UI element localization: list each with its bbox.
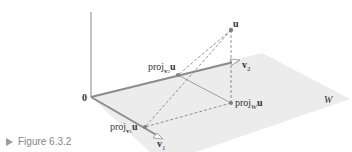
- label-plane-w: W: [324, 95, 332, 105]
- diagram-canvas: [0, 0, 352, 152]
- label-v2: v2: [242, 60, 251, 73]
- caption-text: Figure 6.3.2: [18, 136, 71, 147]
- point-proj-w-u: [229, 101, 233, 105]
- caption-triangle-icon: [6, 138, 13, 146]
- label-proj-v2-u: projv2u: [148, 62, 176, 75]
- label-v1: v1: [157, 139, 166, 152]
- label-proj-w-u: projWu: [235, 98, 263, 111]
- plane-w: [91, 53, 350, 152]
- projection-figure: 0 u v2 v1 projv2u projv1u projWu W Figur…: [0, 0, 352, 152]
- point-proj-v1-u: [143, 125, 147, 129]
- point-proj-v2-u: [176, 73, 180, 77]
- figure-caption: Figure 6.3.2: [6, 136, 71, 147]
- label-origin: 0: [82, 93, 87, 103]
- label-u: u: [233, 19, 239, 29]
- label-proj-v1-u: projv1u: [110, 122, 138, 135]
